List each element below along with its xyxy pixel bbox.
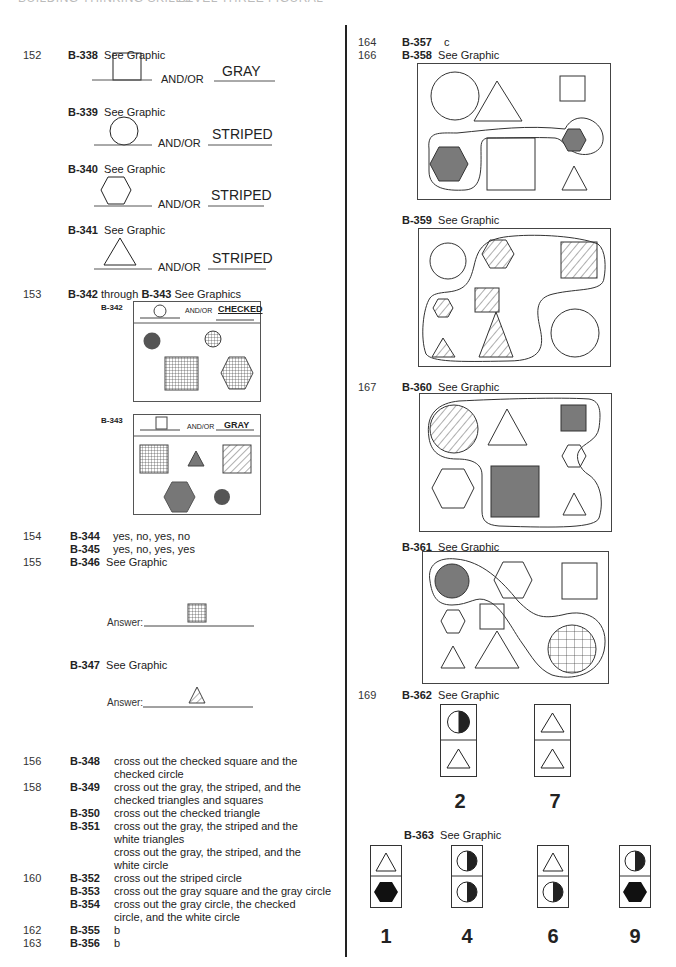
answer-entry-b347: B-347 See Graphic — [70, 659, 167, 672]
entry-text: checked circle — [114, 768, 184, 781]
item-id: B-342 — [68, 288, 98, 300]
item-id: B-341 — [68, 224, 98, 236]
graphic-b342 — [133, 301, 263, 406]
answer-entry-b342-b343: B-342 through B-343 See Graphics — [68, 288, 241, 301]
striped-square — [475, 288, 499, 312]
answer-entry-b358: B-358 See Graphic — [402, 49, 499, 62]
triangle-shape — [104, 238, 136, 265]
through-text: through — [101, 288, 138, 300]
entry-text: cross out the gray, the striped, and the — [114, 781, 301, 794]
striped-triangle — [189, 687, 205, 703]
entry-text: cross out the checked square and the — [114, 755, 297, 768]
item-id: B-343 — [141, 288, 171, 300]
running-header-left: BUILDING THINKING SKILLS — [18, 0, 191, 5]
and-or-label: AND/OR — [161, 73, 204, 85]
answer-number: 2 — [440, 790, 480, 813]
answer-entry-b359: B-359 See Graphic — [402, 214, 499, 227]
column-divider — [345, 25, 347, 957]
item-id: B-348 — [70, 755, 100, 768]
page-number: 163 — [23, 937, 41, 949]
item-id: B-358 — [402, 49, 432, 61]
card-4 — [452, 846, 483, 908]
item-id: B-349 — [70, 781, 100, 794]
item-id: B-351 — [70, 820, 100, 833]
answer-text: CHECKED — [218, 304, 263, 314]
item-id: B-362 — [402, 689, 432, 701]
checked-square — [165, 357, 198, 390]
entry-text: See Graphic — [440, 829, 501, 841]
answer-entry-b362: B-362 See Graphic — [402, 689, 499, 702]
item-id: B-352 — [70, 872, 100, 885]
answer-text: GRAY — [222, 63, 261, 79]
card-7 — [535, 705, 571, 777]
entry-text: See Graphic — [438, 381, 499, 393]
answer-entry-b363: B-363 See Graphic — [404, 829, 501, 842]
graphic-b362 — [440, 704, 640, 779]
entry-text: See Graphic — [104, 163, 165, 175]
answer-number: 6 — [533, 925, 573, 948]
entry-text: circle, and the white circle — [114, 911, 240, 924]
answer-number: 4 — [447, 925, 487, 948]
item-id: B-350 — [70, 807, 100, 820]
page-number: 164 — [358, 36, 376, 48]
answer-entry-b346: B-346 See Graphic — [70, 556, 167, 569]
answer-text: STRIPED — [212, 126, 273, 142]
card-6 — [538, 846, 569, 908]
item-id: B-340 — [68, 163, 98, 175]
item-id: B-360 — [402, 381, 432, 393]
item-id: B-363 — [404, 829, 434, 841]
answer-label: Answer: — [107, 697, 143, 708]
page-number: 154 — [23, 530, 41, 542]
page-number: 162 — [23, 924, 41, 936]
entry-text: cross out the checked triangle — [114, 807, 260, 820]
entry-text: cross out the gray, the striped, and the — [114, 846, 301, 859]
entry-text: See Graphic — [438, 49, 499, 61]
page-number: 166 — [358, 49, 376, 61]
panel-label: B-343 — [101, 416, 123, 425]
page-number: 152 — [23, 49, 41, 61]
checked-circle — [548, 625, 596, 673]
answer-number: 9 — [615, 925, 655, 948]
answer-text: STRIPED — [211, 187, 272, 203]
checked-circle — [205, 331, 221, 347]
entry-text: c — [444, 36, 450, 49]
item-id: B-355 — [70, 924, 100, 937]
answer-entry-b341: B-341 See Graphic — [68, 224, 165, 237]
graphic-b359 — [418, 228, 612, 368]
entry-text: cross out the gray square and the gray c… — [114, 885, 331, 898]
and-or-label: AND/OR — [158, 198, 201, 210]
gray-circle — [214, 489, 230, 505]
and-or-label: AND/OR — [185, 307, 212, 314]
item-id: B-359 — [402, 214, 432, 226]
striped-circle — [430, 405, 478, 453]
card-9 — [620, 846, 651, 908]
page-number: 158 — [23, 781, 41, 793]
and-or-label: AND/OR — [158, 261, 201, 273]
gray-square — [561, 405, 586, 431]
entry-text: See Graphic — [106, 659, 167, 671]
entry-text: checked triangles and squares — [114, 794, 263, 807]
gray-circle — [435, 564, 469, 598]
page-number: 156 — [23, 755, 41, 767]
item-id: B-346 — [70, 556, 100, 568]
graphic-b358 — [417, 63, 612, 201]
answer-text: STRIPED — [212, 250, 273, 266]
entry-text: white triangles — [114, 833, 184, 846]
entry-text: See Graphic — [438, 214, 499, 226]
entry-text: See Graphics — [174, 288, 241, 300]
card-1 — [371, 846, 402, 908]
circle-shape — [110, 117, 138, 145]
entry-text: b — [114, 924, 120, 937]
item-id: B-353 — [70, 885, 100, 898]
entry-text: cross out the gray circle, the checked — [114, 898, 296, 911]
gray-square — [491, 466, 539, 517]
checked-square — [140, 445, 168, 473]
entry-text: yes, no, yes, yes — [113, 543, 195, 556]
graphic-b346 — [144, 602, 264, 632]
answer-label: Answer: — [107, 617, 143, 628]
entry-text: b — [114, 937, 120, 950]
entry-text: yes, no, yes, no — [113, 530, 190, 543]
square-shape — [113, 53, 141, 80]
answer-entry-b340: B-340 See Graphic — [68, 163, 165, 176]
gray-circle — [144, 333, 161, 350]
